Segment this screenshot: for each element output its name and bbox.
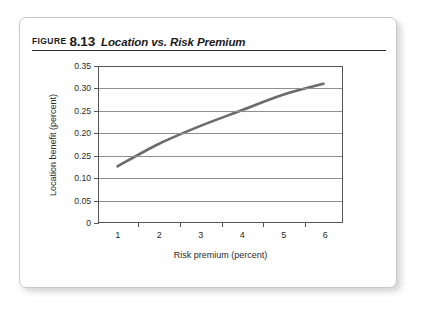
y-axis-tick — [94, 178, 99, 179]
y-axis-tick — [94, 66, 99, 67]
y-axis-tick-label: 0.35 — [74, 61, 91, 71]
y-axis-tick — [94, 201, 99, 202]
y-axis-title-label: Location benefit (percent) — [48, 93, 58, 195]
chart-plot-region: Location benefit (percent) 0.350.300.250… — [32, 60, 388, 276]
gridline — [99, 156, 342, 157]
y-axis-tick-label: 0.25 — [74, 106, 91, 116]
x-axis-tick — [305, 222, 306, 227]
y-axis-tick — [94, 223, 99, 224]
x-axis-tick — [180, 222, 181, 227]
gridline — [99, 66, 342, 67]
plot-box: 0.350.300.250.200.250.100.050123456 — [98, 66, 343, 223]
gridline — [99, 201, 342, 202]
figure-number: 8.13 — [70, 34, 95, 49]
x-axis-tick-label: 5 — [281, 230, 286, 240]
y-axis-title: Location benefit (percent) — [46, 66, 60, 223]
x-axis-tick-label: 2 — [157, 230, 162, 240]
gridline — [99, 133, 342, 134]
gridline — [99, 111, 342, 112]
x-axis-tick — [263, 222, 264, 227]
x-axis-title-label: Risk premium (percent) — [174, 250, 268, 260]
y-axis-tick — [94, 156, 99, 157]
y-axis-tick — [94, 88, 99, 89]
y-axis-tick — [94, 133, 99, 134]
x-axis-tick-label: 1 — [115, 230, 120, 240]
y-axis-tick-label: 0.30 — [74, 83, 91, 93]
gridline — [99, 178, 342, 179]
y-axis-tick-label: 0.10 — [74, 173, 91, 183]
x-axis-tick-label: 6 — [323, 230, 328, 240]
x-axis-tick — [222, 222, 223, 227]
y-axis-tick-label: 0 — [86, 218, 91, 228]
x-axis-tick-label: 3 — [198, 230, 203, 240]
y-axis-tick-label: 0.05 — [74, 196, 91, 206]
x-axis-tick-label: 4 — [240, 230, 245, 240]
figure-title: Location vs. Risk Premium — [101, 36, 246, 48]
figure-label: FIGURE — [32, 36, 67, 46]
y-axis-tick — [94, 111, 99, 112]
x-axis-title: Risk premium (percent) — [98, 250, 343, 260]
gridline — [99, 88, 342, 89]
y-axis-tick-label: 0.25 — [74, 151, 91, 161]
x-axis-tick — [138, 222, 139, 227]
y-axis-tick-label: 0.20 — [74, 128, 91, 138]
figure-caption: FIGURE8.13Location vs. Risk Premium — [32, 32, 386, 51]
figure-card: FIGURE8.13Location vs. Risk Premium Loca… — [19, 17, 397, 288]
